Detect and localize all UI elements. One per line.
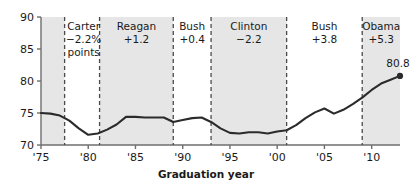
- era-change-reagan: +1.2: [124, 33, 150, 45]
- endpoint-value-label: 80.8: [386, 57, 409, 69]
- era-change-carter: −2.2%: [66, 33, 101, 45]
- y-tick-label: 75: [20, 107, 34, 120]
- x-tick-label: '00: [269, 151, 286, 164]
- x-axis-title: Graduation year: [158, 168, 255, 180]
- era-label-carter: Carter: [67, 20, 101, 32]
- x-tick-label: '05: [316, 151, 333, 164]
- graduation-rate-chart: 7075808590 '75'80'85'90'95'00'05'10 Cart…: [0, 0, 412, 183]
- y-tick-label: 80: [20, 75, 34, 88]
- x-axis-ticks: '75'80'85'90'95'00'05'10: [32, 145, 380, 164]
- x-tick-label: '90: [174, 151, 191, 164]
- x-tick-label: '95: [221, 151, 238, 164]
- shaded-band-pre-era: [41, 17, 65, 145]
- chart-canvas: 7075808590 '75'80'85'90'95'00'05'10 Cart…: [0, 0, 412, 183]
- y-axis-ticks: 7075808590: [20, 11, 41, 152]
- era-label-bush-43: Bush: [311, 20, 337, 32]
- y-tick-label: 90: [20, 11, 34, 24]
- era-label-clinton: Clinton: [230, 20, 267, 32]
- era-change-bush-41: +0.4: [179, 33, 205, 45]
- y-tick-label: 85: [20, 43, 34, 56]
- x-tick-label: '10: [363, 151, 380, 164]
- era-label-reagan: Reagan: [117, 20, 156, 32]
- era-change-clinton: −2.2: [236, 33, 262, 45]
- era-change-units-carter: points: [67, 46, 99, 58]
- x-tick-label: '75: [32, 151, 49, 164]
- era-change-obama: +5.3: [368, 33, 394, 45]
- era-change-bush-43: +3.8: [312, 33, 338, 45]
- era-label-bush-41: Bush: [179, 20, 205, 32]
- x-tick-label: '80: [80, 151, 97, 164]
- era-label-obama: Obama: [362, 20, 400, 32]
- x-tick-label: '85: [127, 151, 144, 164]
- endpoint-dot: [397, 73, 403, 79]
